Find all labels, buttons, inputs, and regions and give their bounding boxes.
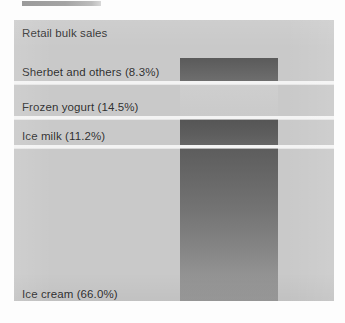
- figure-page: Retail bulk sales Sherbet and others (8.…: [0, 0, 345, 323]
- divider-rule-sherbet: [14, 81, 334, 84]
- column-segment-retail-bulk-sales[interactable]: [180, 20, 278, 58]
- label-ice-milk: Ice milk (11.2%): [22, 130, 105, 142]
- divider-rule-ice-milk: [14, 145, 334, 148]
- chart-plot-area: Retail bulk sales Sherbet and others (8.…: [14, 20, 334, 301]
- divider-rule-frozen-yogurt: [14, 116, 334, 119]
- label-sherbet: Sherbet and others (8.3%): [22, 66, 159, 78]
- stacked-column[interactable]: [180, 20, 278, 301]
- column-segment-ice-milk[interactable]: [180, 117, 278, 145]
- label-frozen-yogurt: Frozen yogurt (14.5%): [22, 101, 139, 113]
- column-segment-ice-cream[interactable]: [180, 146, 278, 301]
- redaction-bar: [22, 1, 101, 6]
- column-segment-frozen-yogurt[interactable]: [180, 82, 278, 116]
- column-segment-sherbet[interactable]: [180, 58, 278, 81]
- label-ice-cream: Ice cream (66.0%): [22, 288, 118, 300]
- label-retail-bulk-sales: Retail bulk sales: [22, 27, 107, 39]
